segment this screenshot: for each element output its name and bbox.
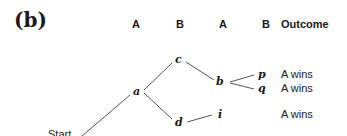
outcome-p: A wins: [281, 68, 313, 80]
edge-d-i: [187, 115, 212, 122]
outcome-q: A wins: [281, 82, 313, 94]
edge-start-a: [82, 95, 130, 136]
node-d: d: [175, 117, 183, 129]
node-i: i: [218, 109, 222, 121]
outcome-i: A wins: [281, 108, 313, 120]
node-p: p: [258, 69, 266, 81]
edge-b-q: [230, 83, 254, 89]
edge-a-d: [144, 93, 172, 119]
node-start: Start: [48, 128, 71, 136]
node-c: c: [175, 54, 182, 66]
edge-c-b: [186, 62, 214, 80]
edge-a-c: [144, 63, 172, 90]
edge-b-p: [230, 75, 254, 82]
node-b: b: [216, 76, 224, 88]
node-a: a: [133, 86, 140, 98]
node-q: q: [258, 83, 266, 95]
